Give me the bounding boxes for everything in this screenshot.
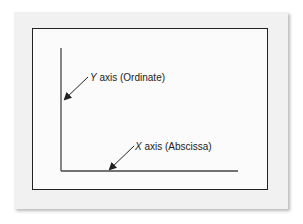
y-axis-label: Y axis (Ordinate) [90,73,165,83]
y-axis-variable: Y [90,72,97,83]
x-axis-variable: X [135,141,142,152]
x-axis-pointer-arrow [110,146,134,169]
y-axis-description: axis (Ordinate) [97,72,165,83]
y-axis-pointer-arrow [65,77,88,99]
x-axis-label: X axis (Abscissa) [135,142,212,152]
axes-diagram [0,0,303,224]
x-axis-description: axis (Abscissa) [142,141,212,152]
